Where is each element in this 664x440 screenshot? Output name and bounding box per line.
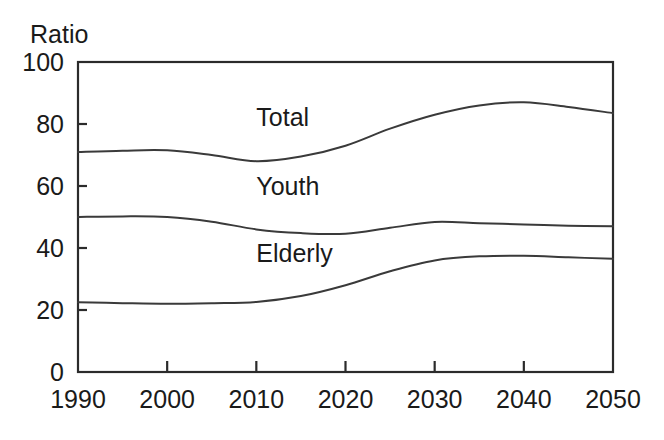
y-axis-title: Ratio	[30, 20, 88, 48]
series-line-total	[78, 102, 613, 161]
y-axis-tick-labels: 020406080100	[22, 48, 64, 386]
y-tick-label-100: 100	[22, 48, 64, 76]
x-tick-label-2020: 2020	[318, 385, 374, 413]
y-tick-label-40: 40	[36, 234, 64, 262]
x-axis-tick-labels: 1990200020102020203020402050	[50, 385, 641, 413]
series-annotations: TotalYouthElderly	[256, 103, 333, 267]
series-label-total: Total	[256, 103, 309, 131]
series-line-elderly	[78, 256, 613, 304]
y-tick-label-20: 20	[36, 296, 64, 324]
x-tick-label-2040: 2040	[496, 385, 552, 413]
x-tick-label-2030: 2030	[407, 385, 463, 413]
chart-container: Ratio 020406080100 199020002010202020302…	[0, 0, 664, 440]
y-tick-label-80: 80	[36, 110, 64, 138]
y-tick-label-60: 60	[36, 172, 64, 200]
series-label-youth: Youth	[256, 172, 319, 200]
x-axis-ticks	[167, 361, 524, 372]
series-label-elderly: Elderly	[256, 239, 333, 267]
series-lines	[78, 102, 613, 304]
x-tick-label-1990: 1990	[50, 385, 106, 413]
ratio-line-chart: Ratio 020406080100 199020002010202020302…	[0, 0, 664, 440]
x-tick-label-2050: 2050	[585, 385, 641, 413]
x-tick-label-2000: 2000	[139, 385, 195, 413]
series-line-youth	[78, 216, 613, 234]
x-tick-label-2010: 2010	[229, 385, 285, 413]
y-tick-label-0: 0	[50, 358, 64, 386]
